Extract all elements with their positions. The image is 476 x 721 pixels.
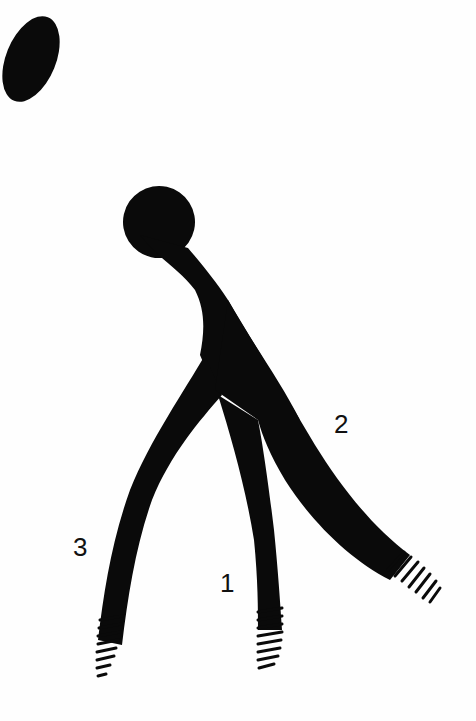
hatch-tip-2 <box>388 552 440 602</box>
detached-ellipse <box>0 8 71 110</box>
branch-label-1: 1 <box>220 570 234 596</box>
branch-label-2: 2 <box>334 411 348 437</box>
branch-label-3: 3 <box>73 534 87 560</box>
branching-figure <box>0 0 476 721</box>
branch-3 <box>98 355 222 645</box>
